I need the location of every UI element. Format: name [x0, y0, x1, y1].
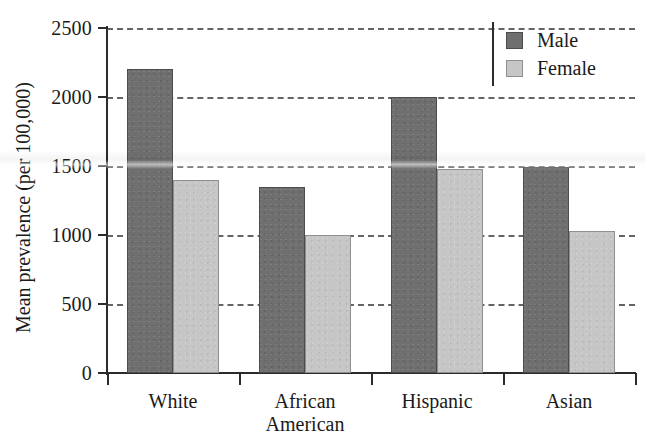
x-axis-label: AfricanAmerican — [239, 390, 371, 436]
y-tick-label: 1500 — [0, 156, 92, 176]
bar-female-asian — [569, 231, 615, 373]
bar-female-white — [173, 180, 219, 373]
bar-female-hispanic — [437, 169, 483, 373]
y-tick-mark — [98, 234, 108, 236]
bar-male-asian — [523, 167, 569, 373]
legend-label-female: Female — [537, 58, 596, 78]
y-tick-mark — [98, 303, 108, 305]
y-tick-label: 1000 — [0, 225, 92, 245]
legend-swatch-male — [506, 32, 523, 49]
bar-male-african-american — [259, 187, 305, 373]
x-axis-label: Asian — [503, 390, 635, 413]
x-axis-label-line: African — [239, 390, 371, 413]
x-axis-end-tick — [107, 373, 109, 385]
y-tick-mark — [98, 96, 108, 98]
x-axis-label: Hispanic — [371, 390, 503, 413]
y-tick-mark — [98, 27, 108, 29]
x-tick-mark — [371, 373, 373, 385]
x-tick-mark — [503, 373, 505, 385]
y-tick-label: 0 — [0, 363, 92, 383]
y-tick-mark — [98, 165, 108, 167]
legend-item-female: Female — [506, 54, 635, 82]
bar-female-african-american — [305, 235, 351, 373]
bar-chart: Mean prevalence (per 100,000) 0500100015… — [0, 0, 645, 446]
y-tick-label: 500 — [0, 294, 92, 314]
gridline — [107, 97, 635, 99]
legend: Male Female — [492, 22, 635, 86]
y-tick-label: 2000 — [0, 87, 92, 107]
x-axis-label: White — [107, 390, 239, 413]
x-axis-label-line: American — [239, 413, 371, 436]
legend-item-male: Male — [506, 26, 635, 54]
x-axis-end-tick — [635, 373, 637, 385]
x-axis-label-line: Asian — [503, 390, 635, 413]
x-axis-label-line: Hispanic — [371, 390, 503, 413]
bar-male-white — [127, 69, 173, 373]
legend-label-male: Male — [537, 30, 578, 50]
x-axis-label-line: White — [107, 390, 239, 413]
bar-male-hispanic — [391, 97, 437, 373]
legend-swatch-female — [506, 60, 523, 77]
y-tick-label: 2500 — [0, 18, 92, 38]
x-tick-mark — [239, 373, 241, 385]
